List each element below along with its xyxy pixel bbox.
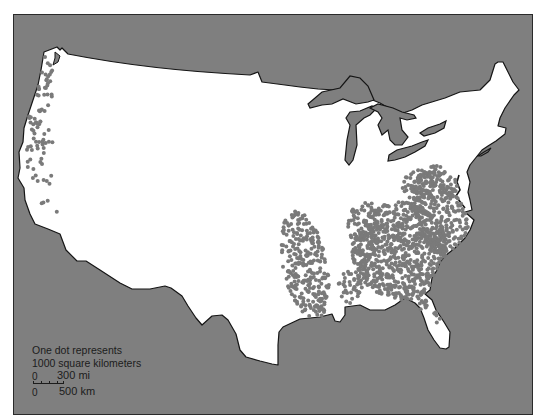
scale-tick bbox=[33, 381, 34, 384]
scale-bar: 0 300 mi 0 500 km bbox=[32, 371, 112, 401]
scale-tick bbox=[57, 381, 58, 384]
scale-mi-label: 300 mi bbox=[57, 369, 90, 381]
scale-tick bbox=[41, 381, 42, 384]
scale-tick bbox=[63, 381, 64, 384]
scale-tick bbox=[49, 381, 50, 384]
map-legend: One dot represents 1000 square kilometer… bbox=[32, 344, 141, 370]
scale-zero-km: 0 bbox=[32, 387, 38, 398]
scale-km-label: 500 km bbox=[59, 385, 95, 397]
legend-line-1: One dot represents bbox=[32, 344, 141, 357]
scale-line bbox=[33, 383, 63, 384]
